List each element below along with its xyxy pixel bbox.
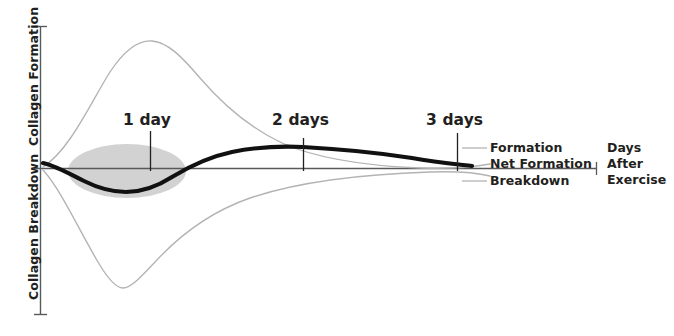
x-axis-title-line2: After	[607, 157, 643, 172]
legend-label-breakdown: Breakdown	[490, 174, 569, 189]
shaded-damage-window	[68, 144, 186, 198]
legend-label-formation: Formation	[490, 141, 562, 156]
tick-label-3-days: 3 days	[426, 111, 483, 129]
legend-label-net-formation: Net Formation	[490, 157, 592, 172]
y-axis-title-formation: Collagen Formation	[27, 7, 42, 146]
x-axis-title-line3: Exercise	[607, 173, 666, 188]
x-axis-title-line1: Days	[607, 141, 641, 156]
collagen-response-chart: Collagen Formation Collagen Breakdown 1 …	[0, 0, 674, 336]
y-axis-title-breakdown: Collagen Breakdown	[27, 154, 42, 300]
tick-label-2-days: 2 days	[272, 111, 329, 129]
tick-label-1-day: 1 day	[123, 111, 171, 129]
